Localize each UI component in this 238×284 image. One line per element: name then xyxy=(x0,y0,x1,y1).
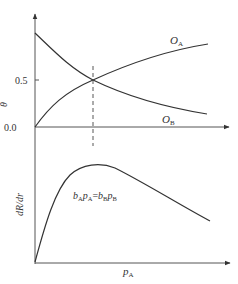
equation-label: bApA=bBpB xyxy=(73,190,117,202)
bottom-x-label: pA xyxy=(122,265,134,279)
curve-dr-dr xyxy=(35,165,210,262)
top-panel: 0.5 0.0 θ OA OB xyxy=(0,33,229,146)
curve-o-a xyxy=(35,44,208,127)
label-o-a: OA xyxy=(170,34,183,48)
chart-figure: 0.5 0.0 θ OA OB dR/dr bApA=bBpB pA xyxy=(0,0,238,284)
tick-label-0.0: 0.0 xyxy=(4,122,17,133)
top-y-label: θ xyxy=(0,102,9,107)
bottom-y-label: dR/dr xyxy=(14,193,25,216)
bottom-panel: dR/dr bApA=bBpB pA xyxy=(14,165,230,279)
label-o-b: OB xyxy=(162,113,175,127)
tick-label-0.5: 0.5 xyxy=(15,75,28,86)
